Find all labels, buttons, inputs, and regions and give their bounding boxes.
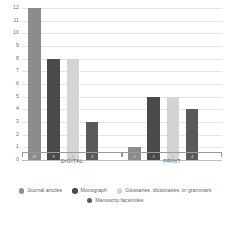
legend-item[interactable]: Monograph — [72, 188, 107, 194]
legend-row: Journal articlesMonographGlossaries, dic… — [0, 188, 230, 194]
bar-groups: 128831554 — [22, 8, 222, 160]
legend-swatch-icon — [87, 198, 93, 204]
legend-row: Manuscrip facsimiles — [0, 198, 230, 204]
y-tick-label: 0 — [16, 157, 19, 162]
bar-slot: 12 — [28, 8, 41, 160]
bars-container: 12883 — [22, 8, 122, 160]
legend-item[interactable]: Manuscrip facsimiles — [87, 198, 144, 204]
legend-item[interactable]: Glossaries, dictionaries, or grammars — [117, 188, 211, 194]
bar-slot: 4 — [186, 8, 199, 160]
category-label: PRINT — [122, 159, 222, 164]
category-cell: PRINT — [122, 152, 222, 170]
legend-swatch-icon — [72, 188, 78, 194]
y-tick-label: 3 — [16, 119, 19, 124]
bar-slot: 3 — [86, 8, 99, 160]
legend-label: Monograph — [81, 188, 107, 193]
bar-chart: 0123456789101112 128831554 DIGITALPRINT … — [0, 0, 230, 227]
legend-swatch-icon — [117, 188, 123, 194]
legend-swatch-icon — [19, 188, 25, 194]
y-tick-label: 1 — [16, 145, 19, 150]
bar-slot: 8 — [67, 8, 80, 160]
bars-container: 1554 — [122, 8, 222, 160]
bar-slot: 1 — [128, 8, 141, 160]
category-axis: DIGITALPRINT — [22, 152, 222, 170]
y-tick-label: 10 — [13, 31, 19, 36]
category-tick — [22, 152, 23, 157]
y-axis: 0123456789101112 — [0, 8, 22, 160]
y-tick-label: 6 — [16, 81, 19, 86]
legend-item[interactable]: Journal articles — [19, 188, 62, 194]
bar-group: 12883 — [22, 8, 122, 160]
y-tick-label: 8 — [16, 56, 19, 61]
bar[interactable]: 12 — [28, 8, 41, 160]
y-tick-label: 12 — [13, 5, 19, 10]
bar-slot: 5 — [167, 8, 180, 160]
category-tick — [122, 152, 123, 157]
category-cell: DIGITAL — [22, 152, 122, 170]
bar[interactable]: 8 — [47, 59, 60, 160]
legend-label: Journal articles — [27, 188, 62, 193]
category-label: DIGITAL — [22, 159, 122, 164]
bar-group: 1554 — [122, 8, 222, 160]
bar-slot: 5 — [147, 8, 160, 160]
y-tick-label: 4 — [16, 107, 19, 112]
y-tick-label: 7 — [16, 69, 19, 74]
bar[interactable]: 5 — [167, 97, 180, 160]
y-tick-label: 9 — [16, 43, 19, 48]
y-tick-label: 11 — [13, 18, 19, 23]
bar[interactable]: 5 — [147, 97, 160, 160]
category-tick — [221, 152, 222, 157]
legend-label: Manuscrip facsimiles — [95, 198, 143, 203]
bar-slot: 8 — [47, 8, 60, 160]
bar[interactable]: 8 — [67, 59, 80, 160]
y-tick-label: 5 — [16, 94, 19, 99]
chart-legend: Journal articlesMonographGlossaries, dic… — [0, 188, 230, 207]
legend-label: Glossaries, dictionaries, or grammars — [125, 188, 211, 193]
plot-area: 0123456789101112 128831554 — [0, 8, 230, 168]
y-tick-label: 2 — [16, 132, 19, 137]
category-labels: DIGITALPRINT — [22, 152, 222, 170]
